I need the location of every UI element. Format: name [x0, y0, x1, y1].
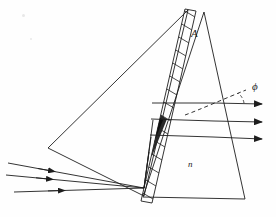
- apex-angle-label: A: [191, 28, 198, 39]
- diffraction-angle-label: ϕ: [252, 81, 258, 92]
- incident-ray-2: [6, 175, 144, 188]
- incident-rays-group: [6, 163, 144, 192]
- grating-dark-segment: [142, 112, 167, 156]
- refractive-index-label: n: [188, 160, 193, 169]
- diffraction-angle-arc: [238, 93, 244, 103]
- diffracted-ray-0: [152, 103, 262, 104]
- prism-triangle: [143, 12, 245, 199]
- incident-ray-3: [14, 188, 144, 192]
- reference-normal-dashed: [185, 90, 246, 115]
- scan-artifact: [30, 38, 32, 40]
- optical-diagram-figure: A n ϕ: [0, 0, 276, 217]
- incident-ray-1-arrow: [38, 169, 52, 172]
- incident-ray-1: [8, 163, 144, 188]
- diagram-canvas: [0, 0, 276, 217]
- scan-artifact: [22, 14, 25, 17]
